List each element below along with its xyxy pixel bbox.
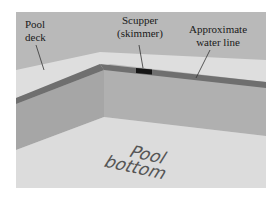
- pool-diagram: Pool deck Scupper (skimmer) Approximate …: [0, 0, 278, 197]
- label-pool-deck: Pool: [25, 18, 45, 30]
- label-water-line-2: water line: [196, 36, 240, 48]
- label-pool-deck-2: deck: [25, 31, 46, 43]
- label-scupper-2: (skimmer): [117, 27, 163, 40]
- label-water-line: Approximate: [189, 23, 247, 35]
- label-scupper: Scupper: [122, 14, 158, 26]
